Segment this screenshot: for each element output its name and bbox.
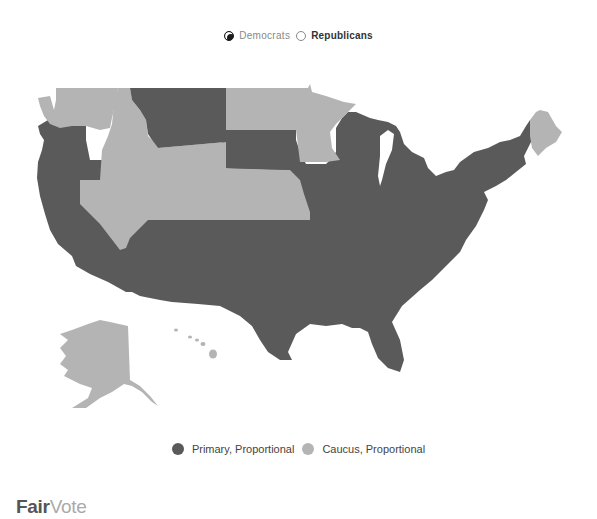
- state-alaska: [60, 320, 158, 408]
- us-map: [0, 0, 597, 519]
- state-maine: [530, 110, 562, 156]
- state-north-dakota: [226, 88, 296, 130]
- legend-item-primary: Primary, Proportional: [172, 443, 295, 455]
- state-south-dakota: [226, 130, 296, 170]
- logo-part-fair: Fair: [16, 496, 50, 517]
- state-washington: [38, 88, 118, 130]
- legend-label-primary: Primary, Proportional: [192, 443, 295, 455]
- swatch-primary-icon: [172, 443, 184, 455]
- state-hawaii: [174, 329, 217, 359]
- map-legend: Primary, Proportional Caucus, Proportion…: [0, 443, 597, 455]
- legend-item-caucus: Caucus, Proportional: [302, 443, 425, 455]
- logo-part-vote: Vote: [50, 496, 87, 517]
- legend-label-caucus: Caucus, Proportional: [322, 443, 425, 455]
- fairvote-logo: FairVote: [16, 496, 87, 518]
- swatch-caucus-icon: [302, 443, 314, 455]
